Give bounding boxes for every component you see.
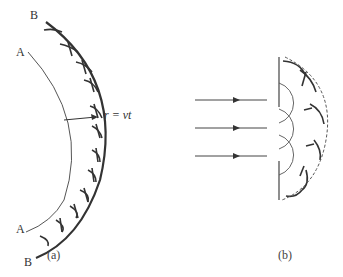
huygens-diagram	[0, 0, 343, 277]
label-a-top: A	[16, 45, 25, 60]
radius-arrow	[64, 114, 98, 120]
radius-label: r = vt	[104, 108, 131, 123]
incident-rays	[195, 100, 267, 156]
label-b-top: B	[30, 8, 38, 23]
panel-b-label: (b)	[278, 248, 292, 263]
label-a-bottom: A	[16, 222, 25, 237]
panel-a-label: (a)	[47, 248, 60, 263]
secondary-wavelets-b	[283, 61, 324, 196]
label-b-bottom: B	[24, 255, 32, 270]
wavefront-a-arc	[26, 52, 72, 232]
huygens-wavelets	[279, 83, 294, 175]
arrowheads	[233, 97, 240, 159]
